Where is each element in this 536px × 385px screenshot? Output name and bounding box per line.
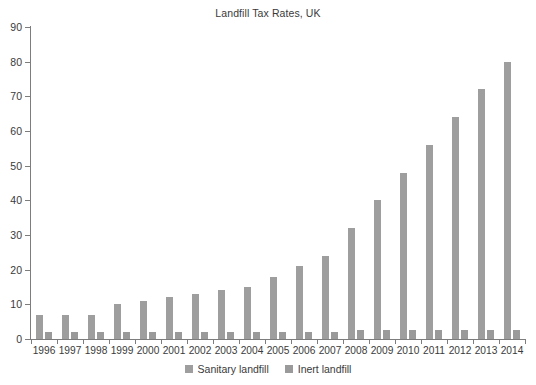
x-axis-tick (187, 339, 188, 344)
x-axis-tick-label: 2002 (189, 345, 212, 356)
x-axis-tick-label: 2012 (449, 345, 472, 356)
bar-inert-2005 (279, 332, 286, 339)
y-axis-tick-label: 10 (0, 298, 22, 310)
x-axis-tick (109, 339, 110, 344)
bar-sanitary-2014 (504, 62, 511, 339)
bar-sanitary-1999 (114, 304, 121, 339)
x-axis-tick-label: 2014 (501, 345, 524, 356)
legend-item-inert-landfill[interactable]: Inert landfill (285, 363, 352, 375)
x-axis-tick-label: 2001 (163, 345, 186, 356)
bar-sanitary-1998 (88, 315, 95, 339)
bar-inert-1998 (97, 332, 104, 339)
bar-sanitary-1996 (36, 315, 43, 339)
x-axis-tick-label: 2005 (267, 345, 290, 356)
x-axis-tick (239, 339, 240, 344)
x-axis-tick (31, 339, 32, 344)
bar-inert-2011 (435, 330, 442, 339)
bar-inert-2007 (331, 332, 338, 339)
legend-item-sanitary-landfill[interactable]: Sanitary landfill (185, 363, 269, 375)
bar-inert-2008 (357, 330, 364, 339)
bar-sanitary-2001 (166, 297, 173, 339)
bar-inert-2002 (201, 332, 208, 339)
x-axis-tick (395, 339, 396, 344)
bar-sanitary-2004 (244, 287, 251, 339)
y-axis-tick-label: 30 (0, 229, 22, 241)
chart-title: Landfill Tax Rates, UK (0, 7, 536, 19)
x-axis-tick (369, 339, 370, 344)
legend-swatch-icon (285, 365, 293, 373)
bar-sanitary-2010 (400, 173, 407, 339)
x-axis-tick (421, 339, 422, 344)
x-axis-tick (343, 339, 344, 344)
bar-sanitary-2011 (426, 145, 433, 339)
legend-swatch-icon (185, 365, 193, 373)
bar-inert-1997 (71, 332, 78, 339)
x-axis-tick-label: 2004 (241, 345, 264, 356)
y-axis-tick-label: 0 (0, 333, 22, 345)
x-axis-tick (161, 339, 162, 344)
x-axis-tick-label: 2013 (475, 345, 498, 356)
bar-sanitary-2013 (478, 89, 485, 339)
x-axis-tick (525, 339, 526, 344)
x-axis-tick-label: 2007 (319, 345, 342, 356)
bar-inert-2004 (253, 332, 260, 339)
bar-inert-2010 (409, 330, 416, 339)
bar-inert-2000 (149, 332, 156, 339)
x-axis-tick (213, 339, 214, 344)
bar-sanitary-2002 (192, 294, 199, 339)
bar-sanitary-2008 (348, 228, 355, 339)
y-axis-tick-label: 40 (0, 194, 22, 206)
y-axis-tick-label: 70 (0, 90, 22, 102)
chart-legend: Sanitary landfillInert landfill (0, 363, 536, 375)
bar-inert-2012 (461, 330, 468, 339)
bar-inert-1996 (45, 332, 52, 339)
x-axis-tick-label: 2003 (215, 345, 238, 356)
bar-sanitary-2005 (270, 277, 277, 339)
x-axis-tick-label: 1996 (33, 345, 56, 356)
y-axis-tick-label: 60 (0, 125, 22, 137)
x-axis-tick (499, 339, 500, 344)
x-axis-tick (265, 339, 266, 344)
x-axis-line (30, 339, 525, 340)
bar-inert-2009 (383, 330, 390, 339)
y-axis-tick-label: 80 (0, 56, 22, 68)
y-axis-tick-label: 50 (0, 160, 22, 172)
x-axis-tick-label: 2000 (137, 345, 160, 356)
bar-inert-2014 (513, 330, 520, 339)
x-axis-tick-label: 2010 (397, 345, 420, 356)
x-axis-tick (291, 339, 292, 344)
legend-label: Inert landfill (298, 363, 352, 375)
bar-sanitary-2009 (374, 200, 381, 339)
bar-inert-2003 (227, 332, 234, 339)
x-axis-tick (473, 339, 474, 344)
bar-sanitary-2007 (322, 256, 329, 339)
bar-sanitary-2000 (140, 301, 147, 339)
x-axis-tick-label: 1998 (85, 345, 108, 356)
x-axis-tick-label: 1997 (59, 345, 82, 356)
y-axis-tick-label: 20 (0, 264, 22, 276)
x-axis-tick-label: 2008 (345, 345, 368, 356)
legend-label: Sanitary landfill (198, 363, 269, 375)
x-axis-tick-label: 2006 (293, 345, 316, 356)
x-axis-tick (135, 339, 136, 344)
x-axis-tick (83, 339, 84, 344)
y-axis-tick-label: 90 (0, 21, 22, 33)
bar-inert-1999 (123, 332, 130, 339)
chart-container: Landfill Tax Rates, UK 01020304050607080… (0, 0, 536, 385)
bar-sanitary-2012 (452, 117, 459, 339)
bar-sanitary-2006 (296, 266, 303, 339)
x-axis-tick (447, 339, 448, 344)
bar-sanitary-2003 (218, 290, 225, 339)
bar-inert-2013 (487, 330, 494, 339)
x-axis-tick-label: 1999 (111, 345, 134, 356)
x-axis-tick-label: 2011 (423, 345, 445, 356)
bar-inert-2006 (305, 332, 312, 339)
x-axis-tick (57, 339, 58, 344)
plot-area (31, 27, 525, 339)
bar-inert-2001 (175, 332, 182, 339)
x-axis-tick-label: 2009 (371, 345, 394, 356)
x-axis-tick (317, 339, 318, 344)
bar-sanitary-1997 (62, 315, 69, 339)
